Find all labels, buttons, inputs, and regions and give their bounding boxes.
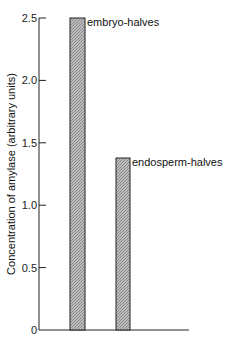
y-axis-label: Concentration of amylase (arbitrary unit…: [5, 73, 17, 275]
tick-label: 0: [31, 324, 37, 336]
bar-endosperm-halves: [116, 158, 130, 330]
tick-label: 0.5: [22, 262, 37, 274]
bar-embryo-halves: [70, 18, 85, 330]
bar-label-endosperm: endosperm-halves: [132, 156, 223, 168]
amylase-bar-chart: 2.5 2.0 1.5 1.0 0.5 0 Concentration of a…: [0, 0, 234, 341]
y-ticks: 2.5 2.0 1.5 1.0 0.5 0: [22, 12, 46, 336]
tick-label: 2.0: [22, 74, 37, 86]
tick-label: 1.5: [22, 137, 37, 149]
tick-label: 2.5: [22, 12, 37, 24]
bar-label-embryo: embryo-halves: [87, 16, 160, 28]
tick-label: 1.0: [22, 199, 37, 211]
